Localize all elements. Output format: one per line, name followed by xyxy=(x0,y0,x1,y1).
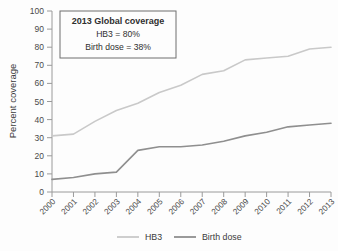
y-tick-label: 90 xyxy=(35,24,45,34)
annotation-line-birth-dose: Birth dose = 38% xyxy=(85,42,151,52)
y-tick-label: 50 xyxy=(35,97,45,107)
y-axis-title: Percent coverage xyxy=(7,64,18,138)
y-tick-label: 60 xyxy=(35,78,45,88)
y-tick-label: 40 xyxy=(35,115,45,125)
annotation-title: 2013 Global coverage xyxy=(72,16,165,26)
annotation-box: 2013 Global coverage HB3 = 80% Birth dos… xyxy=(60,11,176,58)
y-tick-label: 10 xyxy=(35,169,45,179)
legend-label-birth-dose: Birth dose xyxy=(202,232,242,242)
legend-label-hb3: HB3 xyxy=(145,232,162,242)
y-tick-label: 0 xyxy=(39,187,44,197)
y-tick-label: 100 xyxy=(30,6,44,16)
y-tick-label: 20 xyxy=(35,151,45,161)
line-chart: 100 90 80 70 60 50 40 30 20 10 0 Percent… xyxy=(0,0,338,251)
annotation-line-hb3: HB3 = 80% xyxy=(96,29,140,39)
chart-container: 100 90 80 70 60 50 40 30 20 10 0 Percent… xyxy=(0,0,338,251)
y-tick-label: 80 xyxy=(35,42,45,52)
y-tick-label: 70 xyxy=(35,60,45,70)
y-tick-label: 30 xyxy=(35,133,45,143)
